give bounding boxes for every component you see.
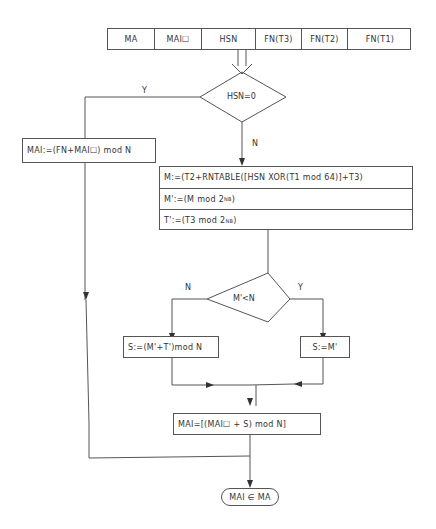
register-field-fn-t1: FN(T1) (348, 29, 412, 49)
m-expr-row: M:=(T2+RNTABLE([HSN XOR(T1 mod 64)]+T3) (160, 167, 412, 189)
s-sum-text: S:=(M'+T')mod N (128, 343, 202, 352)
register-field-hsn: HSN (202, 29, 256, 49)
mai-fn-box: MAI:=(FN+MAI☐) mod N (22, 138, 156, 163)
m-prime-exponent: NB (224, 196, 232, 202)
t-prime-text: T':=(T3 mod 2 (164, 216, 225, 225)
s-sum-box: S:=(M'+T')mod N (123, 336, 219, 358)
s-mprime-box: S:=M' (300, 336, 350, 358)
terminal-node: MAI ∈ MA (221, 488, 279, 506)
m-condition: M'<N (233, 294, 255, 303)
register-field-fn-t2: FN(T2) (302, 29, 348, 49)
t-prime-row: T':=(T3 mod 2NB ) (160, 210, 412, 231)
m-computation-block: M:=(T2+RNTABLE([HSN XOR(T1 mod 64)]+T3) … (159, 166, 413, 230)
register-field-mai0: MAI☐ (155, 29, 202, 49)
m-no-label: N (185, 283, 191, 292)
m-expr-text: M:=(T2+RNTABLE([HSN XOR(T1 mod 64)]+T3) (164, 173, 363, 182)
s-mprime-text: S:=M' (312, 343, 337, 352)
m-yes-label: Y (298, 283, 303, 292)
mai-fn-text: MAI:=(FN+MAI☐) mod N (27, 146, 131, 155)
register-bar: MA MAI☐ HSN FN(T3) FN(T2) FN(T1) (107, 28, 411, 50)
t-prime-close: ) (233, 216, 236, 225)
hsn-yes-label: Y (142, 86, 147, 95)
m-prime-row: M':=(M mod 2NB) (160, 189, 412, 210)
hsn-no-label: N (252, 139, 258, 148)
t-prime-exponent: NB (225, 218, 233, 224)
register-field-fn-t3: FN(T3) (256, 29, 302, 49)
register-field-ma: MA (108, 29, 155, 49)
mai-final-text: MAI=[(MAI☐ + S) mod N] (178, 420, 286, 429)
mai-final-box: MAI=[(MAI☐ + S) mod N] (173, 413, 321, 435)
terminal-text: MAI ∈ MA (229, 493, 271, 502)
hsn-condition: HSN=0 (227, 92, 256, 101)
m-prime-close: ) (232, 195, 235, 204)
flow-connectors (0, 0, 436, 529)
m-prime-text: M':=(M mod 2 (164, 195, 224, 204)
